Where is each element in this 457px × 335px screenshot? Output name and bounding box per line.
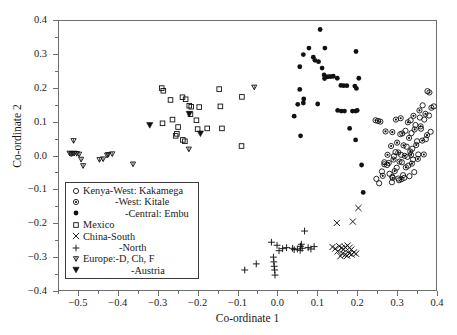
x-tick-mark	[198, 291, 199, 296]
y-tick-label: −0.1	[17, 183, 47, 194]
x-minor-tick-mark	[337, 291, 338, 294]
y-tick-mark	[53, 189, 58, 190]
x-tick-label: 0.0	[257, 297, 297, 308]
data-point-open-triangle-down	[73, 257, 78, 262]
legend-item-7[interactable]: -Austria	[69, 265, 195, 276]
y-tick-label: −0.2	[17, 217, 47, 228]
y-tick-label: 0.4	[17, 14, 47, 25]
y-minor-tick-mark	[55, 139, 58, 140]
x-minor-tick-mark	[377, 291, 378, 294]
x-tick-mark	[238, 291, 239, 296]
y-tick-mark	[53, 257, 58, 258]
legend-label: Europe:-D, Ch, F	[83, 253, 195, 264]
data-point-filled-triangle-down	[73, 268, 79, 274]
data-point-filled-circle	[74, 211, 79, 216]
y-minor-tick-mark	[55, 71, 58, 72]
legend-label: Mexico	[83, 219, 195, 230]
data-point-plus	[73, 244, 80, 251]
y-tick-label: −0.3	[17, 251, 47, 262]
legend-marker-filled-circle-icon	[69, 207, 83, 219]
x-minor-tick-mark	[138, 291, 139, 294]
x-minor-tick-mark	[297, 291, 298, 294]
scatter-plot-figure: −0.5−0.4−0.3−0.2−0.10.00.10.20.30.4−0.4−…	[0, 0, 457, 335]
data-point-cross-x	[73, 233, 79, 239]
x-tick-label: 0.2	[337, 297, 377, 308]
y-tick-mark	[53, 291, 58, 292]
y-tick-mark	[53, 20, 58, 21]
x-tick-label: 0.1	[297, 297, 337, 308]
x-minor-tick-mark	[178, 291, 179, 294]
legend-item-6[interactable]: Europe:-D, Ch, F	[69, 253, 195, 264]
x-tick-label: 0.3	[377, 297, 417, 308]
x-minor-tick-mark	[417, 291, 418, 294]
y-tick-mark	[53, 122, 58, 123]
y-tick-mark	[53, 88, 58, 89]
x-minor-tick-mark	[58, 291, 59, 294]
x-minor-tick-mark	[218, 291, 219, 294]
x-tick-label: 0.4	[417, 297, 457, 308]
x-tick-label: −0.1	[218, 297, 258, 308]
x-minor-tick-mark	[98, 291, 99, 294]
x-tick-mark	[317, 291, 318, 296]
data-point-open-square	[74, 223, 79, 228]
legend-label: -Central: Embu	[83, 208, 195, 219]
legend-label: -North	[83, 242, 195, 253]
legend-item-5[interactable]: -North	[69, 242, 195, 253]
legend-label: Kenya-West: Kakamega	[83, 185, 195, 196]
y-tick-label: 0.3	[17, 48, 47, 59]
data-point-dot-circle	[73, 199, 78, 204]
x-tick-mark	[158, 291, 159, 296]
legend-item-4[interactable]: China-South	[69, 231, 195, 242]
y-minor-tick-mark	[55, 274, 58, 275]
legend-marker-open-square-icon	[69, 219, 83, 231]
legend-item-1[interactable]: -West: Kitale	[69, 196, 195, 207]
x-tick-mark	[118, 291, 119, 296]
x-tick-label: −0.3	[138, 297, 178, 308]
legend-item-3[interactable]: Mexico	[69, 219, 195, 230]
x-tick-mark	[357, 291, 358, 296]
y-tick-mark	[53, 223, 58, 224]
x-tick-label: −0.5	[58, 297, 98, 308]
y-tick-mark	[53, 156, 58, 157]
legend-marker-filled-triangle-down-icon	[69, 264, 83, 276]
x-tick-label: −0.4	[98, 297, 138, 308]
y-tick-mark	[53, 54, 58, 55]
legend-marker-open-triangle-down-icon	[69, 253, 83, 265]
x-tick-label: −0.2	[178, 297, 218, 308]
legend-item-2[interactable]: -Central: Embu	[69, 208, 195, 219]
x-minor-tick-mark	[257, 291, 258, 294]
legend-label: -West: Kitale	[83, 196, 195, 207]
y-axis-label: Co-ordinate 2	[11, 91, 23, 181]
x-tick-mark	[78, 291, 79, 296]
legend-label: -Austria	[83, 265, 195, 276]
legend-marker-plus-icon	[69, 242, 83, 254]
y-minor-tick-mark	[55, 105, 58, 106]
y-minor-tick-mark	[55, 172, 58, 173]
y-minor-tick-mark	[55, 206, 58, 207]
legend-marker-cross-x-icon	[69, 230, 83, 242]
legend-item-0[interactable]: Kenya-West: Kakamega	[69, 185, 195, 196]
x-tick-mark	[397, 291, 398, 296]
x-tick-mark	[437, 291, 438, 296]
x-axis-label: Co-ordinate 1	[58, 312, 437, 324]
y-minor-tick-mark	[55, 37, 58, 38]
y-tick-label: −0.4	[17, 285, 47, 296]
x-tick-mark	[277, 291, 278, 296]
legend-marker-open-circle-icon	[69, 185, 83, 197]
legend-label: China-South	[83, 231, 195, 242]
y-minor-tick-mark	[55, 240, 58, 241]
data-point-open-circle	[73, 188, 78, 193]
legend-marker-dot-circle-icon	[69, 196, 83, 208]
legend-box: Kenya-West: Kakamega-West: Kitale-Centra…	[65, 182, 199, 279]
